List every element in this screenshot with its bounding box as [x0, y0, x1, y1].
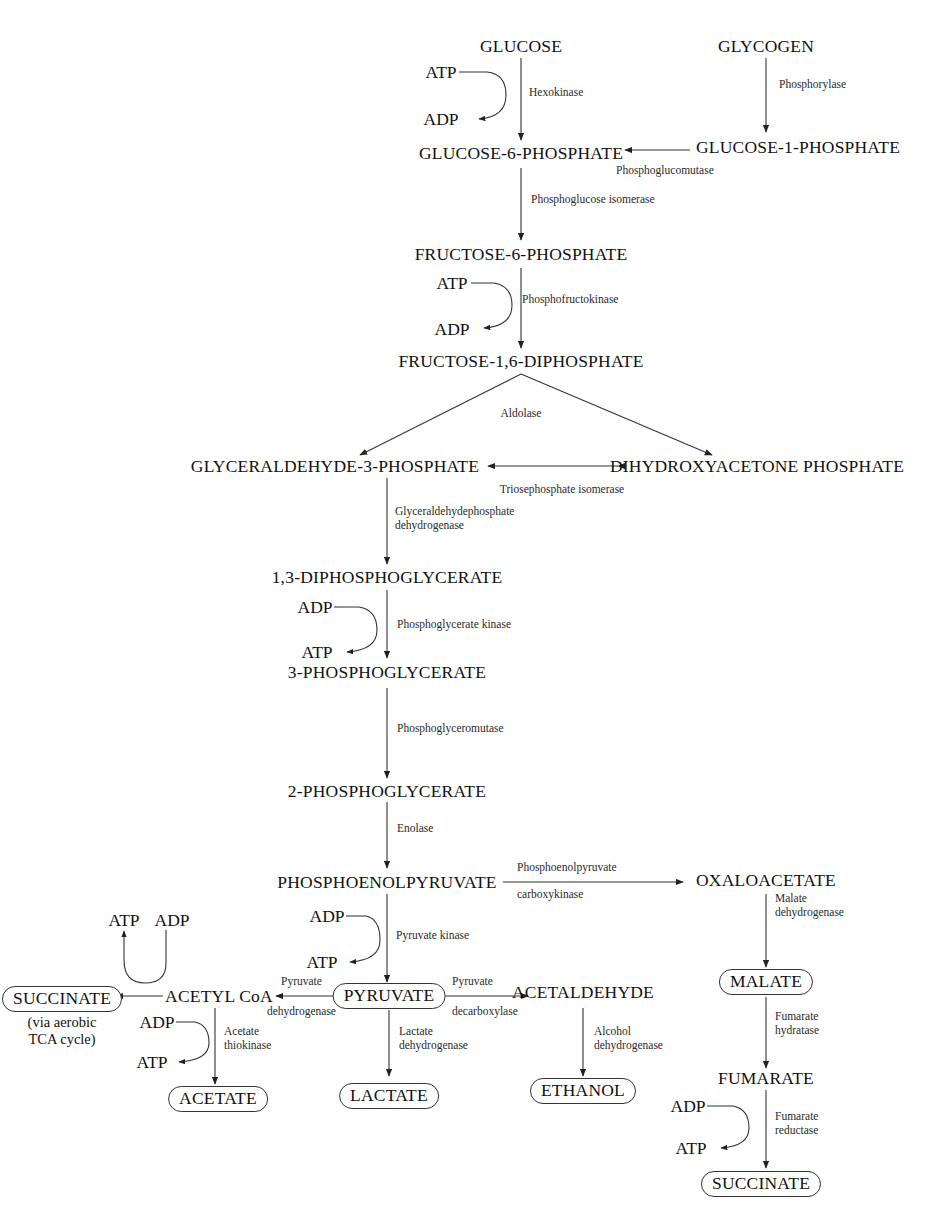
- enzyme-enolase: Enolase: [397, 822, 433, 836]
- edge-fdp-g3p: [360, 374, 521, 455]
- node-phosphoenolpyruvate[interactable]: PHOSPHOENOLPYRUVATE: [277, 872, 496, 893]
- enzyme-phosphoglyceromutase: Phosphoglyceromutase: [397, 722, 504, 736]
- enzyme-acetate-thiokinase: Acetate thiokinase: [224, 1025, 271, 1052]
- node-ethanol[interactable]: ETHANOL: [530, 1078, 636, 1104]
- cofactor-adp-hexokinase: ADP: [423, 109, 458, 130]
- enzyme-pepck-line-2: carboxykinase: [517, 888, 583, 902]
- node-2-phosphoglycerate[interactable]: 2-PHOSPHOGLYCERATE: [288, 781, 486, 802]
- enzyme-mdh-line-1: Malate: [775, 892, 844, 906]
- cofactor-atp-pyruvate-kinase: ATP: [306, 952, 337, 973]
- enzyme-mdh-line-2: dehydrogenase: [775, 905, 844, 919]
- node-succinate-branch[interactable]: SUCCINATE: [701, 1171, 821, 1197]
- cofactor-atp-acetate-thiokinase: ATP: [136, 1052, 167, 1073]
- cofactor-atp-phosphofructokinase: ATP: [436, 273, 467, 294]
- node-acetate[interactable]: ACETATE: [168, 1086, 268, 1112]
- tca-cycle-note: (via aerobic TCA cycle): [28, 1014, 97, 1048]
- cofactor-adp-phosphofructokinase: ADP: [434, 319, 469, 340]
- node-pyruvate[interactable]: PYRUVATE: [333, 983, 446, 1009]
- enzyme-fumarate-reductase-line-1: Fumarate: [775, 1110, 818, 1124]
- cofactor-atp-fumarate-reductase: ATP: [675, 1138, 706, 1159]
- node-fructose-6-phosphate[interactable]: FRUCTOSE-6-PHOSPHATE: [415, 244, 628, 265]
- enzyme-pyruvate-decarboxylase-line-2: decarboxylase: [452, 1005, 518, 1019]
- enzyme-pyruvate-dehydrogenase-line-2: dehydrogenase: [267, 1005, 336, 1019]
- node-glucose-1-phosphate[interactable]: GLUCOSE-1-PHOSPHATE: [696, 137, 900, 158]
- enzyme-adh-line-1: Alcohol: [594, 1025, 663, 1039]
- enzyme-fumarate-reductase-line-2: reductase: [775, 1123, 818, 1137]
- cofactor-atp-tca: ATP: [108, 910, 139, 931]
- cofactor-adp-acetate-thiokinase: ADP: [139, 1012, 174, 1033]
- enzyme-glyceraldehydephosphate-dehydrogenase: Glyceraldehydephosphate dehydrogenase: [395, 505, 514, 532]
- enzyme-acetate-thiokinase-line-1: Acetate: [224, 1025, 271, 1039]
- enzyme-alcohol-dehydrogenase: Alcohol dehydrogenase: [594, 1025, 663, 1052]
- node-malate[interactable]: MALATE: [719, 969, 813, 995]
- node-glucose[interactable]: GLUCOSE: [480, 36, 562, 57]
- node-acetyl-coa[interactable]: ACETYL CoA: [165, 986, 273, 1007]
- enzyme-pepck-line-1: Phosphoenolpyruvate: [517, 861, 617, 875]
- enzyme-pyruvate-dehydrogenase-line-1: Pyruvate: [281, 975, 322, 989]
- enzyme-phosphoglucose-isomerase: Phosphoglucose isomerase: [531, 193, 655, 207]
- edge-adp-atp-pk: [346, 916, 380, 962]
- enzyme-acetate-thiokinase-line-2: thiokinase: [224, 1038, 271, 1052]
- enzyme-phosphoglucomutase: Phosphoglucomutase: [616, 164, 714, 178]
- enzyme-fumarate-hydratase-line-2: hydratase: [775, 1023, 819, 1037]
- edge-fdp-dhap: [521, 374, 712, 455]
- enzyme-adh-line-2: dehydrogenase: [594, 1038, 663, 1052]
- enzyme-fumarate-hydratase: Fumarate hydratase: [775, 1010, 819, 1037]
- tca-note-line-2: TCA cycle): [28, 1031, 97, 1048]
- cofactor-atp-hexokinase: ATP: [425, 62, 456, 83]
- cofactor-adp-fumarate-reductase: ADP: [670, 1096, 705, 1117]
- enzyme-phosphorylase: Phosphorylase: [779, 78, 846, 92]
- enzyme-ldh-line-1: Lactate: [399, 1025, 468, 1039]
- enzyme-malate-dehydrogenase: Malate dehydrogenase: [775, 892, 844, 919]
- node-acetaldehyde[interactable]: ACETALDEHYDE: [512, 982, 654, 1003]
- node-fructose-1-6-diphosphate[interactable]: FRUCTOSE-1,6-DIPHOSPHATE: [398, 351, 643, 372]
- enzyme-pyruvate-decarboxylase-line-1: Pyruvate: [452, 975, 493, 989]
- enzyme-hexokinase: Hexokinase: [529, 86, 583, 100]
- node-3-phosphoglycerate[interactable]: 3-PHOSPHOGLYCERATE: [288, 662, 486, 683]
- edge-atp-adp-hexokinase: [459, 72, 506, 119]
- enzyme-lactate-dehydrogenase: Lactate dehydrogenase: [399, 1025, 468, 1052]
- enzyme-aldolase: Aldolase: [501, 407, 542, 421]
- edge-adp-atp-tca: [124, 930, 166, 983]
- enzyme-fumarate-reductase: Fumarate reductase: [775, 1110, 818, 1137]
- node-lactate[interactable]: LACTATE: [339, 1083, 439, 1109]
- enzyme-triosephosphate-isomerase: Triosephosphate isomerase: [500, 483, 624, 497]
- cofactor-adp-pyruvate-kinase: ADP: [309, 906, 344, 927]
- node-oxaloacetate[interactable]: OXALOACETATE: [696, 870, 836, 891]
- node-dihydroxyacetone-phosphate[interactable]: DIHYDROXYACETONE PHOSPHATE: [610, 456, 904, 477]
- enzyme-gapdh-line-2: dehydrogenase: [395, 518, 514, 532]
- enzyme-ldh-line-2: dehydrogenase: [399, 1038, 468, 1052]
- cofactor-adp-tca: ADP: [154, 910, 189, 931]
- node-fumarate[interactable]: FUMARATE: [718, 1068, 814, 1089]
- node-succinate-tca[interactable]: SUCCINATE: [2, 986, 122, 1012]
- enzyme-phosphoglycerate-kinase: Phosphoglycerate kinase: [397, 618, 511, 632]
- node-1-3-diphosphoglycerate[interactable]: 1,3-DIPHOSPHOGLYCERATE: [272, 567, 503, 588]
- edge-adp-atp-pgk: [334, 607, 377, 652]
- tca-note-line-1: (via aerobic: [28, 1014, 97, 1031]
- node-glucose-6-phosphate[interactable]: GLUCOSE-6-PHOSPHATE: [419, 143, 623, 164]
- enzyme-phosphofructokinase: Phosphofructokinase: [522, 293, 618, 307]
- enzyme-pyruvate-kinase: Pyruvate kinase: [396, 929, 469, 943]
- enzyme-gapdh-line-1: Glyceraldehydephosphate: [395, 505, 514, 519]
- node-glycogen[interactable]: GLYCOGEN: [718, 36, 814, 57]
- pathway-diagram: GLUCOSE GLYCOGEN GLUCOSE-6-PHOSPHATE GLU…: [0, 0, 932, 1221]
- node-glyceraldehyde-3-phosphate[interactable]: GLYCERALDEHYDE-3-PHOSPHATE: [191, 456, 479, 477]
- edge-adp-atp-acetate: [176, 1022, 209, 1062]
- enzyme-fumarate-hydratase-line-1: Fumarate: [775, 1010, 819, 1024]
- edge-adp-atp-fumred: [707, 1106, 749, 1148]
- cofactor-atp-phosphoglycerate-kinase: ATP: [301, 642, 332, 663]
- cofactor-adp-phosphoglycerate-kinase: ADP: [297, 597, 332, 618]
- edge-atp-adp-pfk: [471, 283, 512, 328]
